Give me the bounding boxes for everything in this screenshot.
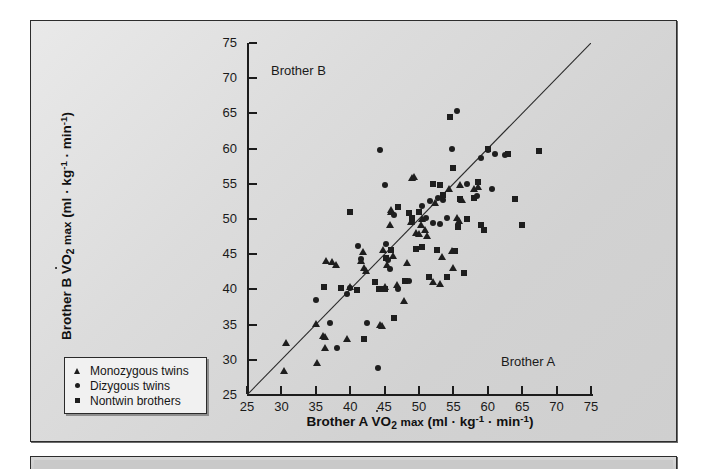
data-point-triangle [410,173,418,180]
data-point-triangle [332,261,340,268]
legend: Monozygous twinsDizygous twinsNontwin br… [64,357,207,414]
data-point-circle [344,291,350,297]
square-marker [70,398,84,403]
data-point-square [485,146,491,152]
data-point-square [372,279,378,285]
data-point-circle [444,215,450,221]
data-point-triangle [456,181,464,188]
data-point-circle [327,320,333,326]
legend-item-label: Monozygous twins [90,364,189,378]
data-point-square [437,182,443,188]
data-point-square [395,204,401,210]
figure-panel: 2530354045505560657075 25303540455055606… [30,20,677,442]
data-point-square [419,244,425,250]
data-point-triangle [321,344,329,351]
data-point-square [481,227,487,233]
data-point-square [457,196,463,202]
x-tick-label: 55 [438,400,468,413]
data-point-triangle [312,320,320,327]
data-point-square [354,287,360,293]
data-point-square [391,315,397,321]
data-point-circle [478,155,484,161]
data-point-triangle [378,322,386,329]
x-tick-label: 40 [335,400,365,413]
data-point-triangle [386,221,394,228]
data-point-square [409,215,415,221]
y-tick-label: 55 [211,177,237,190]
data-point-square [464,216,470,222]
x-tick-label: 70 [542,400,572,413]
data-point-square [505,151,511,157]
data-point-circle [492,151,498,157]
data-point-circle [391,212,397,218]
legend-item-label: Nontwin brothers [90,394,181,408]
data-point-circle [364,320,370,326]
data-point-triangle [321,333,329,340]
data-point-circle [423,215,429,221]
data-point-square [430,181,436,187]
y-tick-label: 35 [211,318,237,331]
data-point-square [455,224,461,230]
data-point-square [519,222,525,228]
data-point-circle [395,286,401,292]
legend-item: Dizygous twins [70,378,200,393]
data-point-triangle [280,367,288,374]
x-tick-label: 75 [576,400,606,413]
x-axis-title: Brother A VO2 max (ml · kg-1 · min-1) [247,413,593,431]
data-point-circle [430,220,436,226]
legend-item: Nontwin brothers [70,393,200,408]
data-point-square [461,270,467,276]
y-tick-label: 65 [211,106,237,119]
x-tick-label: 65 [507,400,537,413]
annotation-brother-a: Brother A [501,354,555,369]
data-point-triangle [379,246,387,253]
data-point-square [382,286,388,292]
data-point-square [512,196,518,202]
y-tick-label: 70 [211,71,237,84]
data-point-square [361,336,367,342]
data-point-circle [387,266,393,272]
data-point-square [413,246,419,252]
data-point-square [471,195,477,201]
data-point-square [388,247,394,253]
data-point-triangle [436,280,444,287]
data-point-square [426,274,432,280]
data-point-triangle [445,185,453,192]
data-point-triangle [282,339,290,346]
y-tick-label: 45 [211,247,237,260]
data-point-circle [454,108,460,114]
y-tick-label: 75 [211,36,237,49]
x-tick-label: 45 [370,400,400,413]
data-point-square [338,285,344,291]
x-tick-label: 30 [266,400,296,413]
data-point-square [444,274,450,280]
data-point-square [321,284,327,290]
data-point-square [383,255,389,261]
y-tick-label: 40 [211,282,237,295]
plot-wrapper: 2530354045505560657075 25303540455055606… [31,21,676,441]
data-point-square [402,278,408,284]
data-point-triangle [455,217,463,224]
data-point-circle [437,221,443,227]
data-point-triangle [362,267,370,274]
x-tick-label: 35 [301,400,331,413]
data-point-triangle [400,297,408,304]
data-point-circle [375,365,381,371]
triangle-marker [70,368,84,374]
y-tick-label: 30 [211,353,237,366]
data-point-circle [383,241,389,247]
data-point-circle [313,297,319,303]
data-point-square [434,247,440,253]
data-point-circle [377,147,383,153]
data-point-circle [382,182,388,188]
data-point-square [536,148,542,154]
annotation-brother-b: Brother B [271,63,326,78]
data-point-square [450,165,456,171]
data-point-triangle [423,232,431,239]
data-point-triangle [438,253,446,260]
data-point-triangle [449,264,457,271]
data-point-square [452,248,458,254]
plot-area [247,43,591,395]
data-point-triangle [403,259,411,266]
y-axis-title: Brother B VO2 max (ml · kg-1 · min-1) [58,50,76,402]
